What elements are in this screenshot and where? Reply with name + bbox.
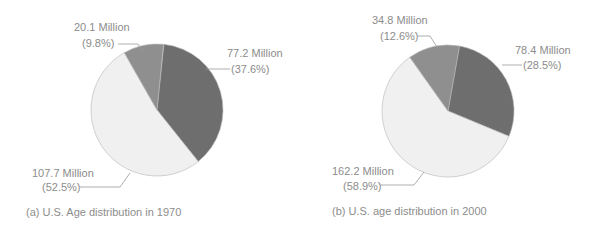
pie-2000-slices: [382, 45, 514, 177]
pie-chart-1970: 20.1 Million (9.8%) 77.2 Million (37.6%)…: [0, 0, 298, 251]
caption-1970: (a) U.S. Age distribution in 1970: [26, 206, 181, 218]
pie-1970-slices: [91, 44, 223, 176]
leader-line-2000-small: [418, 36, 437, 47]
label-1970-middle-pct: (37.6%): [231, 62, 270, 76]
caption-2000: (b) U.S. age distribution in 2000: [332, 205, 487, 217]
label-2000-small-pct: (12.6%): [380, 29, 419, 43]
label-2000-middle-pct: (28.5%): [523, 58, 562, 72]
pie-chart-2000: 34.8 Million (12.6%) 78.4 Million (28.5%…: [296, 0, 594, 251]
label-1970-small-value: 20.1 Million: [74, 20, 130, 34]
label-1970-middle-value: 77.2 Million: [227, 46, 283, 60]
label-1970-large-value: 107.7 Million: [32, 166, 94, 180]
label-1970-large-pct: (52.5%): [42, 180, 81, 194]
label-2000-large-pct: (58.9%): [343, 179, 382, 193]
label-2000-large-value: 162.2 Million: [332, 164, 394, 178]
label-2000-small-value: 34.8 Million: [372, 13, 428, 27]
label-1970-small-pct: (9.8%): [82, 36, 114, 50]
label-2000-middle-value: 78.4 Million: [515, 43, 571, 57]
